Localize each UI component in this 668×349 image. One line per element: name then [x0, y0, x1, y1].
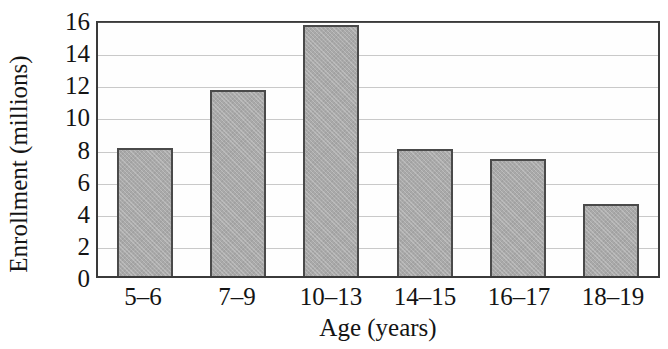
x-tick-label: 16–17: [472, 283, 566, 311]
y-tick-label: 10: [36, 105, 90, 130]
x-tick-label: 14–15: [378, 283, 472, 311]
y-tick-label: 16: [36, 9, 90, 34]
bar-series: [98, 23, 658, 276]
y-axis-tick-labels: 0246810121416: [36, 21, 90, 278]
bar-slot: [471, 23, 564, 276]
bar-slot: [378, 23, 471, 276]
x-tick-label: 5–6: [96, 283, 190, 311]
y-tick-label: 12: [36, 73, 90, 98]
y-axis-title: Enrollment (millions): [5, 19, 33, 309]
bar-slot: [285, 23, 378, 276]
bar: [397, 149, 453, 276]
x-tick-label: 18–19: [566, 283, 660, 311]
bar: [210, 90, 266, 276]
x-axis-title: Age (years): [96, 314, 660, 342]
bar-chart-figure: Enrollment (millions) 0246810121416 5–67…: [0, 0, 668, 349]
y-tick-label: 6: [36, 169, 90, 194]
y-tick-label: 0: [36, 266, 90, 291]
bar-slot: [191, 23, 284, 276]
bar: [303, 25, 359, 276]
x-tick-label: 7–9: [190, 283, 284, 311]
x-axis-tick-labels: 5–67–910–1314–1516–1718–19: [96, 283, 660, 311]
bar: [117, 148, 173, 277]
y-tick-label: 4: [36, 201, 90, 226]
y-tick-label: 14: [36, 41, 90, 66]
x-tick-label: 10–13: [284, 283, 378, 311]
y-tick-label: 8: [36, 137, 90, 162]
bar-slot: [98, 23, 191, 276]
plot-area: [96, 21, 660, 278]
bar-slot: [565, 23, 658, 276]
bar: [490, 159, 546, 276]
y-tick-label: 2: [36, 233, 90, 258]
bar: [583, 204, 639, 276]
